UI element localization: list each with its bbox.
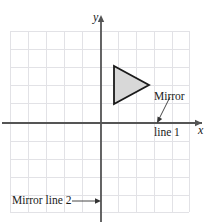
coordinate-grid-figure: y x Mirror line 1 Mirror line 2 [0,0,212,224]
mirror-line-1-label-line1: Mirror [154,90,185,102]
mirror-line-1-label: Mirror line 1 [154,66,185,163]
y-axis [98,15,104,222]
mirror-line-2-label: Mirror line 2 [12,194,71,206]
mirror-line-2-arrow [72,198,101,204]
mirror-line-1-label-line2: line 1 [154,126,185,138]
y-axis-label: y [93,11,98,24]
x-axis-label: x [198,124,203,137]
triangle-shape [114,66,149,104]
